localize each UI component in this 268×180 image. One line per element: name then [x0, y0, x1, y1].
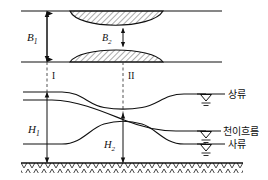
hydraulic-constriction-figure: B1 B2 I II [0, 0, 268, 180]
channel-bed [21, 163, 243, 173]
water-surface-symbol-transitional [197, 131, 215, 143]
water-surface-symbol-supercritical [197, 144, 215, 156]
flow-label-supercritical: 사류 [228, 139, 246, 150]
flow-label-transitional: 천이흐름 [223, 126, 259, 137]
constriction-lower [70, 50, 163, 62]
b2-label: B2 [102, 32, 112, 46]
water-surface-symbol-subcritical [197, 94, 215, 106]
plan-view: B1 B2 [21, 11, 222, 62]
profile-transitional [23, 100, 206, 131]
section-label-I: I [52, 71, 55, 81]
section-label-II: II [128, 71, 134, 81]
profile-supercritical [23, 121, 206, 144]
b1-label: B1 [27, 31, 37, 46]
h1-label: H1 [27, 123, 40, 138]
figure-canvas: B1 B2 I II [0, 0, 268, 180]
h2-label: H2 [103, 139, 116, 153]
profile-view: H1 H2 [21, 92, 243, 173]
constriction-upper [70, 11, 163, 25]
flow-label-subcritical: 상류 [228, 89, 246, 100]
flow-regime-legend: 상류 천이흐름 사류 [197, 89, 259, 156]
